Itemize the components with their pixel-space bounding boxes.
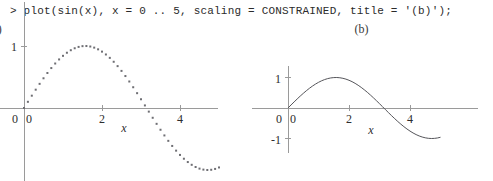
plot-a-x-axis-label: x [120,121,127,135]
plot-a-x-tick-label: 2 [99,112,105,126]
plot-b-y-tick-label: 1 [275,72,281,86]
plot-a-container[interactable]: (a) 24100x [0,22,250,181]
plot-b-x-tick-label: 2 [346,112,352,126]
maple-command-line[interactable]: > plot(sin(x), x = 0 .. 5, scaling = CON… [10,5,452,17]
plot-b-y-tick-label: -1 [271,133,281,147]
plot-b-container[interactable]: (b) 241-100x [250,22,493,181]
plot-a-y-tick-label: 1 [11,40,17,54]
plot-a-origin-x-label: 0 [26,112,32,126]
plot-b-canvas: 241-100x [250,22,493,181]
plot-b-origin-y-label: 0 [276,112,282,126]
plot-a-origin-y-label: 0 [12,112,18,126]
plot-a-x-tick-label: 4 [177,112,183,126]
plot-b-origin-x-label: 0 [290,112,296,126]
plot-b-x-tick-label: 4 [407,112,413,126]
plot-b-x-axis-label: x [367,123,374,137]
plot-a-canvas: 24100x [0,22,250,181]
maple-plot-screenshot: > plot(sin(x), x = 0 .. 5, scaling = CON… [0,0,493,181]
